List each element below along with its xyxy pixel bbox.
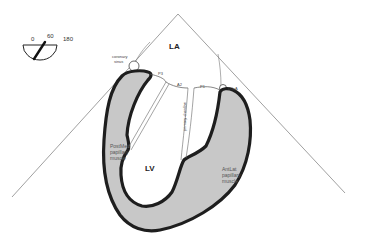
label-a2: A2 xyxy=(177,82,183,87)
angle-indicator: 0 60 180 xyxy=(23,33,74,60)
angle-label-0: 0 xyxy=(31,36,35,42)
angle-label-60: 60 xyxy=(47,33,54,39)
leaflet-p1 xyxy=(194,87,220,90)
label-lv: LV xyxy=(145,164,155,173)
angle-label-180: 180 xyxy=(63,36,74,42)
echo-diagram: 0 60 180 LA LV P3 xyxy=(0,0,365,250)
label-sinus: sinus xyxy=(114,59,123,64)
mitral-valve xyxy=(150,74,220,90)
label-p1: P1 xyxy=(200,84,206,89)
label-antlat-3: muscle xyxy=(222,178,238,184)
diagram-canvas: 0 60 180 LA LV P3 xyxy=(0,0,365,250)
label-p3: P3 xyxy=(158,71,164,76)
label-postmed-3: muscle xyxy=(110,155,126,161)
label-la: LA xyxy=(169,42,180,51)
label-lcxa: LCxA xyxy=(228,86,238,91)
label-primary-chordae: primary chordae xyxy=(182,101,187,131)
angle-semicircle-icon xyxy=(23,45,57,60)
